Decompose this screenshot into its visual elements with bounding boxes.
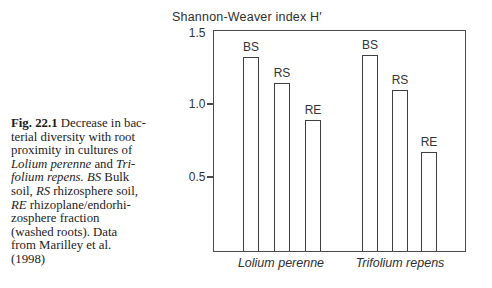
- chart-title: Shannon-Weaver index H′: [172, 10, 322, 24]
- bar-re-1: [305, 120, 321, 251]
- y-tick-label: 0.5: [168, 170, 206, 184]
- bar-re-2: [421, 152, 437, 251]
- caption-line: from Marilley et al.: [11, 239, 176, 253]
- caption-segment: (washed roots). Data: [11, 225, 117, 239]
- caption-segment: Bulk: [101, 170, 129, 184]
- caption-segment: from Marilley et al.: [11, 238, 111, 252]
- caption-line: Lolium perenne and Tri-: [11, 158, 176, 172]
- caption-segment: RE: [11, 198, 27, 212]
- caption-line: proximity in cultures of: [11, 144, 176, 158]
- caption-segment: proximity in cultures of: [11, 143, 132, 157]
- caption-segment: Decrease in bac-: [58, 116, 146, 130]
- y-tick-mark: [207, 103, 213, 105]
- caption-line: RE rhizoplane/endorhi-: [11, 199, 176, 213]
- figure-caption: Fig. 22.1 Decrease in bac-terial diversi…: [11, 117, 176, 267]
- caption-segment: Lolium perenne: [11, 157, 91, 171]
- caption-segment: rhizosphere soil,: [50, 184, 138, 198]
- bar-rs-1: [274, 83, 290, 251]
- bar-label: RE: [293, 103, 333, 117]
- caption-line: zosphere fraction: [11, 212, 176, 226]
- caption-line: folium repens. BS Bulk: [11, 171, 176, 185]
- caption-segment: (1998): [11, 252, 45, 266]
- caption-line: Fig. 22.1 Decrease in bac-: [11, 117, 176, 131]
- bar-rs-2: [392, 90, 408, 251]
- caption-segment: Fig. 22.1: [11, 116, 58, 130]
- caption-segment: RS: [36, 184, 50, 198]
- caption-segment: soil,: [11, 184, 36, 198]
- caption-line: (washed roots). Data: [11, 226, 176, 240]
- caption-segment: folium repens.: [11, 170, 84, 184]
- bar-label: RS: [380, 73, 420, 87]
- bar-bs-2: [362, 55, 378, 251]
- group-label: Trifolium repens: [330, 256, 470, 270]
- plot-area: 1.51.00.5BSRSRELolium perenneBSRSRETrifo…: [213, 30, 466, 252]
- bar-bs-1: [243, 57, 259, 251]
- figure-22-1: Fig. 22.1 Decrease in bac-terial diversi…: [0, 0, 492, 288]
- caption-segment: and: [91, 157, 116, 171]
- y-tick-label: 1.0: [168, 97, 206, 111]
- caption-segment: terial diversity with root: [11, 130, 135, 144]
- y-tick-label: 1.5: [168, 26, 206, 40]
- caption-line: (1998): [11, 253, 176, 267]
- bar-label: BS: [231, 40, 271, 54]
- bar-label: RS: [262, 66, 302, 80]
- y-tick-mark: [207, 176, 213, 178]
- caption-segment: BS: [87, 170, 101, 184]
- caption-segment: zosphere fraction: [11, 211, 99, 225]
- caption-segment: rhizoplane/endorhi-: [27, 198, 131, 212]
- caption-line: soil, RS rhizosphere soil,: [11, 185, 176, 199]
- caption-segment: Tri-: [116, 157, 135, 171]
- bar-label: RE: [409, 135, 449, 149]
- bar-label: BS: [350, 38, 390, 52]
- caption-line: terial diversity with root: [11, 131, 176, 145]
